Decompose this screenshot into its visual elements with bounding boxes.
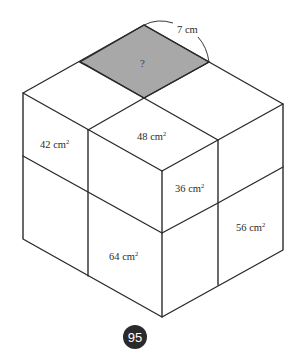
area-label-36: 36 cm2 xyxy=(175,182,204,194)
dimension-arc-left xyxy=(144,21,173,25)
area-label-64: 64 cm2 xyxy=(109,250,138,262)
area-label-42: 42 cm2 xyxy=(40,138,69,150)
area-label-56: 56 cm2 xyxy=(236,221,265,233)
area-label-48: 48 cm2 xyxy=(137,130,166,142)
dimension-label: 7 cm xyxy=(177,24,198,35)
page-number-badge: 95 xyxy=(123,325,147,349)
left-face-horizontal-divider xyxy=(23,156,162,233)
cuboid-diagram: 7 cm ? 48 cm2 42 cm2 64 cm2 36 cm2 56 cm… xyxy=(0,0,304,356)
page-number: 95 xyxy=(128,330,142,345)
top-face-right-front-edge xyxy=(162,104,283,171)
unknown-area-label: ? xyxy=(140,57,145,69)
